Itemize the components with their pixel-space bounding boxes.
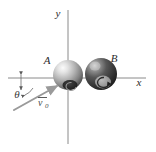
diagram-canvas: x y A B θ v 0 xyxy=(0,0,156,152)
y-axis-label: y xyxy=(55,7,61,19)
initial-velocity-vector xyxy=(14,86,57,110)
angle-arc xyxy=(25,88,33,95)
sphere-b-label: B xyxy=(111,52,118,64)
velocity-label-group: v 0 xyxy=(38,97,49,110)
angle-label: θ xyxy=(14,88,20,100)
physics-diagram-figure: x y A B θ v 0 xyxy=(0,0,156,152)
sphere-b-highlight xyxy=(90,62,101,71)
velocity-symbol: v xyxy=(38,97,43,108)
velocity-subscript: 0 xyxy=(45,102,49,110)
sphere-a-label: A xyxy=(43,54,51,66)
x-axis-label: x xyxy=(136,76,142,88)
